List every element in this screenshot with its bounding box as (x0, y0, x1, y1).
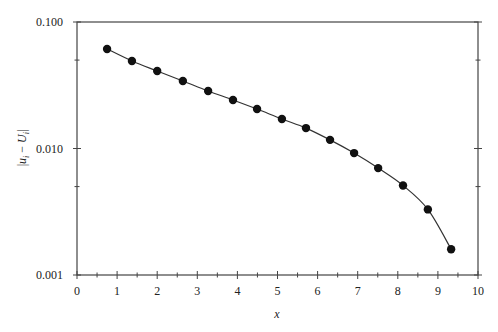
data-point-marker (204, 87, 212, 95)
x-tick-label: 3 (194, 284, 200, 298)
x-tick-label: 0 (74, 284, 80, 298)
y-tick-label: 0.100 (36, 15, 63, 29)
data-point-marker (128, 57, 136, 65)
plot-border (77, 22, 478, 275)
data-point-marker (302, 124, 310, 132)
x-tick-label: 4 (234, 284, 240, 298)
data-point-marker (350, 149, 358, 157)
data-point-marker (179, 77, 187, 85)
data-point-marker (153, 67, 161, 75)
data-point-marker (253, 105, 261, 113)
data-point-marker (326, 136, 334, 144)
data-point-marker (103, 45, 111, 53)
plot-frame (77, 22, 478, 275)
data-point-marker (374, 164, 382, 172)
x-tick-label: 6 (315, 284, 321, 298)
y-tick-label: 0.010 (36, 142, 63, 156)
y-tick-label: 0.001 (36, 268, 63, 282)
error-plot: 012345678910 0.0010.0100.100 x |ui − Ui| (0, 0, 498, 332)
x-axis-label: x (273, 307, 280, 321)
x-tick-label: 5 (275, 284, 281, 298)
data-point-marker (424, 205, 432, 213)
data-point-marker (399, 181, 407, 189)
x-tick-label: 1 (114, 284, 120, 298)
data-point-marker (229, 96, 237, 104)
x-tick-label: 7 (355, 284, 361, 298)
x-tick-label: 8 (395, 284, 401, 298)
y-axis-ticks: 0.0010.0100.100 (36, 15, 482, 282)
data-point-marker (278, 115, 286, 123)
data-series (103, 45, 455, 254)
data-point-marker (447, 245, 455, 253)
y-axis-label: |ui − Ui| (15, 130, 31, 167)
x-tick-label: 9 (435, 284, 441, 298)
x-tick-label: 2 (154, 284, 160, 298)
series-line (107, 49, 451, 249)
x-tick-label: 10 (472, 284, 484, 298)
